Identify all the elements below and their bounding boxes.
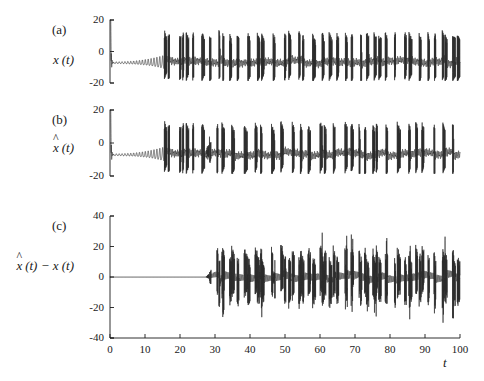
figure-root: (a)x(t)200-20(b)^x(t)200-20(c)^x(t) − x … xyxy=(0,0,484,381)
data-trace-c xyxy=(110,233,460,323)
x-axis-label: t xyxy=(443,355,447,371)
plot-area-c xyxy=(0,0,484,381)
